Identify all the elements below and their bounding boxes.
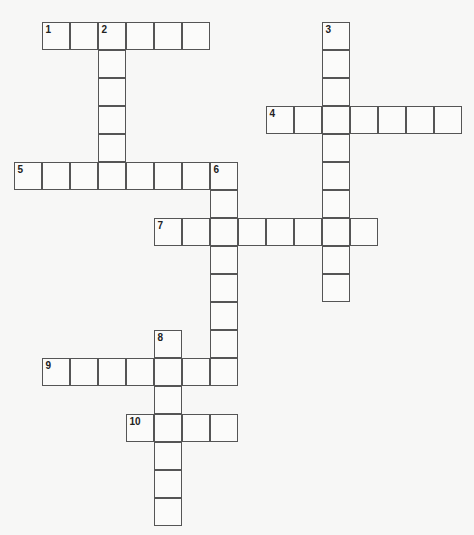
letter-input[interactable]	[211, 303, 237, 329]
letter-input[interactable]	[323, 191, 349, 217]
letter-input[interactable]	[435, 107, 461, 133]
crossword-cell[interactable]	[238, 218, 266, 246]
crossword-cell[interactable]: 6	[210, 162, 238, 190]
letter-input[interactable]	[323, 219, 349, 245]
letter-input[interactable]	[127, 23, 153, 49]
letter-input[interactable]	[295, 219, 321, 245]
letter-input[interactable]	[127, 415, 153, 441]
letter-input[interactable]	[155, 331, 181, 357]
crossword-cell[interactable]	[154, 442, 182, 470]
crossword-cell[interactable]	[98, 106, 126, 134]
letter-input[interactable]	[183, 23, 209, 49]
crossword-cell[interactable]	[210, 302, 238, 330]
letter-input[interactable]	[211, 163, 237, 189]
crossword-cell[interactable]	[210, 330, 238, 358]
crossword-cell[interactable]	[210, 358, 238, 386]
crossword-cell[interactable]	[210, 414, 238, 442]
letter-input[interactable]	[323, 135, 349, 161]
crossword-cell[interactable]	[210, 274, 238, 302]
letter-input[interactable]	[211, 219, 237, 245]
letter-input[interactable]	[323, 275, 349, 301]
crossword-cell[interactable]	[154, 470, 182, 498]
crossword-cell[interactable]	[126, 358, 154, 386]
letter-input[interactable]	[155, 23, 181, 49]
crossword-cell[interactable]	[378, 106, 406, 134]
letter-input[interactable]	[351, 107, 377, 133]
crossword-cell[interactable]	[126, 22, 154, 50]
crossword-cell[interactable]	[182, 22, 210, 50]
crossword-cell[interactable]: 10	[126, 414, 154, 442]
letter-input[interactable]	[323, 23, 349, 49]
letter-input[interactable]	[323, 247, 349, 273]
letter-input[interactable]	[155, 471, 181, 497]
crossword-cell[interactable]	[70, 162, 98, 190]
crossword-cell[interactable]: 4	[266, 106, 294, 134]
letter-input[interactable]	[99, 51, 125, 77]
letter-input[interactable]	[155, 219, 181, 245]
crossword-cell[interactable]	[98, 162, 126, 190]
crossword-cell[interactable]	[98, 50, 126, 78]
crossword-cell[interactable]	[294, 106, 322, 134]
crossword-cell[interactable]: 1	[42, 22, 70, 50]
crossword-cell[interactable]	[70, 358, 98, 386]
letter-input[interactable]	[71, 163, 97, 189]
letter-input[interactable]	[211, 275, 237, 301]
crossword-cell[interactable]	[98, 134, 126, 162]
crossword-cell[interactable]	[98, 78, 126, 106]
crossword-cell[interactable]	[42, 162, 70, 190]
letter-input[interactable]	[323, 163, 349, 189]
crossword-cell[interactable]	[182, 218, 210, 246]
crossword-cell[interactable]	[154, 498, 182, 526]
letter-input[interactable]	[211, 191, 237, 217]
letter-input[interactable]	[351, 219, 377, 245]
letter-input[interactable]	[127, 359, 153, 385]
crossword-cell[interactable]: 3	[322, 22, 350, 50]
crossword-cell[interactable]: 2	[98, 22, 126, 50]
crossword-cell[interactable]	[98, 358, 126, 386]
letter-input[interactable]	[323, 51, 349, 77]
crossword-cell[interactable]	[322, 190, 350, 218]
letter-input[interactable]	[99, 163, 125, 189]
crossword-cell[interactable]	[350, 218, 378, 246]
letter-input[interactable]	[99, 79, 125, 105]
letter-input[interactable]	[407, 107, 433, 133]
crossword-cell[interactable]	[322, 218, 350, 246]
letter-input[interactable]	[211, 359, 237, 385]
crossword-cell[interactable]	[322, 162, 350, 190]
crossword-cell[interactable]	[350, 106, 378, 134]
crossword-cell[interactable]	[154, 386, 182, 414]
letter-input[interactable]	[43, 359, 69, 385]
letter-input[interactable]	[43, 163, 69, 189]
letter-input[interactable]	[323, 79, 349, 105]
letter-input[interactable]	[183, 163, 209, 189]
letter-input[interactable]	[99, 359, 125, 385]
letter-input[interactable]	[155, 415, 181, 441]
letter-input[interactable]	[155, 443, 181, 469]
crossword-cell[interactable]	[210, 218, 238, 246]
letter-input[interactable]	[43, 23, 69, 49]
crossword-cell[interactable]	[70, 22, 98, 50]
crossword-cell[interactable]	[154, 162, 182, 190]
crossword-cell[interactable]: 5	[14, 162, 42, 190]
letter-input[interactable]	[379, 107, 405, 133]
crossword-cell[interactable]	[322, 246, 350, 274]
letter-input[interactable]	[155, 387, 181, 413]
crossword-cell[interactable]	[182, 162, 210, 190]
letter-input[interactable]	[71, 359, 97, 385]
crossword-cell[interactable]: 9	[42, 358, 70, 386]
crossword-cell[interactable]	[322, 274, 350, 302]
letter-input[interactable]	[211, 247, 237, 273]
letter-input[interactable]	[155, 359, 181, 385]
crossword-cell[interactable]	[322, 134, 350, 162]
letter-input[interactable]	[155, 163, 181, 189]
letter-input[interactable]	[15, 163, 41, 189]
crossword-cell[interactable]	[210, 190, 238, 218]
crossword-cell[interactable]	[322, 50, 350, 78]
letter-input[interactable]	[267, 219, 293, 245]
letter-input[interactable]	[99, 135, 125, 161]
crossword-cell[interactable]	[294, 218, 322, 246]
crossword-cell[interactable]	[210, 246, 238, 274]
letter-input[interactable]	[211, 415, 237, 441]
crossword-cell[interactable]: 8	[154, 330, 182, 358]
letter-input[interactable]	[267, 107, 293, 133]
